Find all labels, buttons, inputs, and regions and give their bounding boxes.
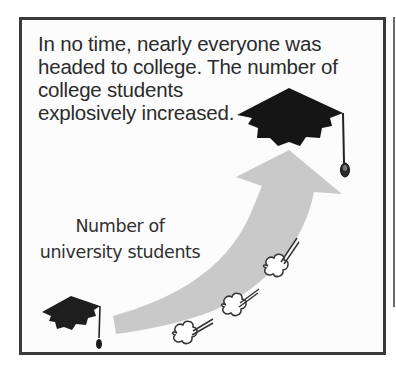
graduation-cap-icon: [42, 296, 102, 349]
arrow-label-line: university students: [30, 239, 210, 265]
caption-line: explosively increased.: [38, 101, 338, 124]
smoke-puff-icon: [173, 319, 213, 344]
arrow-label: Number of university students: [30, 213, 210, 265]
caption-line: In no time, nearly everyone was: [38, 32, 338, 55]
arrow-label-line: Number of: [30, 213, 210, 239]
caption-line: college students: [38, 78, 338, 101]
caption-line: headed to college. The number of: [38, 55, 338, 78]
narration-caption: In no time, nearly everyone was headed t…: [38, 32, 338, 124]
